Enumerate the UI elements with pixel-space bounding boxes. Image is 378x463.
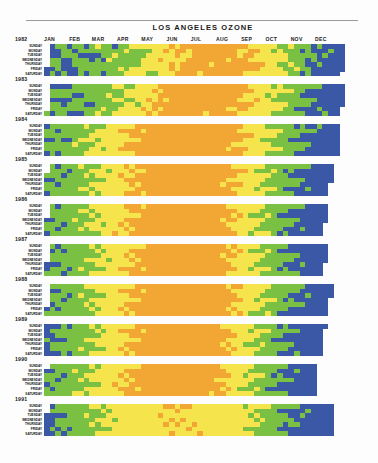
day-label-sunday: SUNDAY [29, 124, 42, 128]
heatmap-cell [322, 191, 328, 196]
day-label-sunday: SUNDAY [29, 164, 42, 168]
day-label-monday: MONDAY [29, 209, 42, 213]
day-label-wednesday: WEDNESDAY [22, 338, 42, 342]
heatmap-cell [328, 178, 334, 183]
year-label-1988: 1988 [15, 276, 27, 282]
year-band-1988: 1988SUNDAYMONDAYTUESDAYWEDNESDAYTHURSDAY… [0, 284, 378, 324]
month-label-jun: JUN [167, 36, 178, 42]
year-label-1986: 1986 [15, 196, 27, 202]
page-title: LOS ANGELES OZONE [14, 23, 378, 32]
day-label-wednesday: WEDNESDAY [22, 178, 42, 182]
heatmap-cell [339, 102, 345, 107]
heatmap-cell [311, 391, 317, 396]
day-label-tuesday: TUESDAY [28, 413, 43, 417]
day-label-sunday: SUNDAY [29, 324, 42, 328]
day-label-friday: FRIDAY [31, 387, 42, 391]
day-label-wednesday: WEDNESDAY [22, 138, 42, 142]
year-band-1983: 1983SUNDAYMONDAYTUESDAYWEDNESDAYTHURSDAY… [0, 84, 378, 124]
day-label-friday: FRIDAY [31, 427, 42, 431]
month-axis: JANFEBMARAPRMAYJUNJULAUGSEPOCTNOVDEC [44, 36, 354, 44]
day-label-monday: MONDAY [29, 249, 42, 253]
day-label-tuesday: TUESDAY [28, 53, 43, 57]
month-label-aug: AUG [216, 36, 228, 42]
day-axis-1990: SUNDAYMONDAYTUESDAYWEDNESDAYTHURSDAYFRID… [14, 364, 42, 396]
day-label-tuesday: TUESDAY [28, 333, 43, 337]
day-label-thursday: THURSDAY [25, 342, 42, 346]
day-label-thursday: THURSDAY [25, 102, 42, 106]
day-label-friday: FRIDAY [31, 67, 42, 71]
year-label-1991: 1991 [15, 396, 27, 402]
month-label-jul: JUL [191, 36, 202, 42]
day-axis-1982: SUNDAYMONDAYTUESDAYWEDNESDAYTHURSDAYFRID… [14, 44, 42, 76]
day-label-wednesday: WEDNESDAY [22, 418, 42, 422]
heatmap-cell [317, 271, 323, 276]
heatmap-cell [328, 293, 334, 298]
day-label-monday: MONDAY [29, 89, 42, 93]
day-label-tuesday: TUESDAY [28, 133, 43, 137]
heatmap-grid-1983 [44, 84, 345, 116]
heatmap-cell [317, 231, 323, 236]
heatmap-grid-1987 [44, 244, 345, 276]
day-label-saturday: SATURDAY [25, 352, 42, 356]
day-label-saturday: SATURDAY [25, 272, 42, 276]
day-label-saturday: SATURDAY [25, 312, 42, 316]
day-axis-1984: SUNDAYMONDAYTUESDAYWEDNESDAYTHURSDAYFRID… [14, 124, 42, 156]
day-label-friday: FRIDAY [31, 187, 42, 191]
day-label-wednesday: WEDNESDAY [22, 218, 42, 222]
heatmap-cell [322, 258, 328, 263]
day-label-sunday: SUNDAY [29, 244, 42, 248]
day-label-friday: FRIDAY [31, 147, 42, 151]
year-band-1989: 1989SUNDAYMONDAYTUESDAYWEDNESDAYTHURSDAY… [0, 324, 378, 364]
day-axis-1986: SUNDAYMONDAYTUESDAYWEDNESDAYTHURSDAYFRID… [14, 204, 42, 236]
day-label-monday: MONDAY [29, 329, 42, 333]
day-label-sunday: SUNDAY [29, 204, 42, 208]
month-label-mar: MAR [92, 36, 105, 42]
heatmap-cell [328, 431, 334, 436]
day-label-monday: MONDAY [29, 129, 42, 133]
day-label-sunday: SUNDAY [29, 44, 42, 48]
day-axis-1987: SUNDAYMONDAYTUESDAYWEDNESDAYTHURSDAYFRID… [14, 244, 42, 276]
heatmap-grid-1989 [44, 324, 345, 356]
day-axis-1989: SUNDAYMONDAYTUESDAYWEDNESDAYTHURSDAYFRID… [14, 324, 42, 356]
day-axis-1983: SUNDAYMONDAYTUESDAYWEDNESDAYTHURSDAYFRID… [14, 84, 42, 116]
day-label-saturday: SATURDAY [25, 192, 42, 196]
title-rule [26, 20, 358, 21]
ozone-calendar-heatmap-page: LOS ANGELES OZONE JANFEBMARAPRMAYJUNJULA… [0, 0, 378, 463]
year-band-1991: 1991SUNDAYMONDAYTUESDAYWEDNESDAYTHURSDAY… [0, 404, 378, 444]
heatmap-grid-1991 [44, 404, 345, 436]
day-label-sunday: SUNDAY [29, 364, 42, 368]
month-label-jan: JAN [44, 36, 55, 42]
month-label-apr: APR [117, 36, 129, 42]
day-label-sunday: SUNDAY [29, 404, 42, 408]
day-label-wednesday: WEDNESDAY [22, 258, 42, 262]
heatmap-grid-1982 [44, 44, 345, 76]
heatmap-cell [334, 151, 340, 156]
year-label-1990: 1990 [15, 356, 27, 362]
day-label-wednesday: WEDNESDAY [22, 98, 42, 102]
day-label-sunday: SUNDAY [29, 284, 42, 288]
day-label-thursday: THURSDAY [25, 422, 42, 426]
day-label-tuesday: TUESDAY [28, 213, 43, 217]
day-label-saturday: SATURDAY [25, 72, 42, 76]
day-axis-1985: SUNDAYMONDAYTUESDAYWEDNESDAYTHURSDAYFRID… [14, 164, 42, 196]
heatmap-grid-1988 [44, 284, 345, 316]
year-band-1982: 1982SUNDAYMONDAYTUESDAYWEDNESDAYTHURSDAY… [0, 44, 378, 84]
day-label-friday: FRIDAY [31, 347, 42, 351]
day-label-thursday: THURSDAY [25, 182, 42, 186]
heatmap-cell [322, 218, 328, 223]
day-label-sunday: SUNDAY [29, 84, 42, 88]
day-label-saturday: SATURDAY [25, 152, 42, 156]
day-label-monday: MONDAY [29, 169, 42, 173]
day-label-thursday: THURSDAY [25, 382, 42, 386]
year-label-1984: 1984 [15, 116, 27, 122]
year-band-1987: 1987SUNDAYMONDAYTUESDAYWEDNESDAYTHURSDAY… [0, 244, 378, 284]
day-label-wednesday: WEDNESDAY [22, 378, 42, 382]
day-label-wednesday: WEDNESDAY [22, 58, 42, 62]
day-label-tuesday: TUESDAY [28, 253, 43, 257]
day-label-wednesday: WEDNESDAY [22, 298, 42, 302]
year-bands: 1982SUNDAYMONDAYTUESDAYWEDNESDAYTHURSDAY… [0, 44, 378, 444]
day-axis-1988: SUNDAYMONDAYTUESDAYWEDNESDAYTHURSDAYFRID… [14, 284, 42, 316]
heatmap-cell [334, 111, 340, 116]
year-label-1983: 1983 [15, 76, 27, 82]
day-label-saturday: SATURDAY [25, 432, 42, 436]
